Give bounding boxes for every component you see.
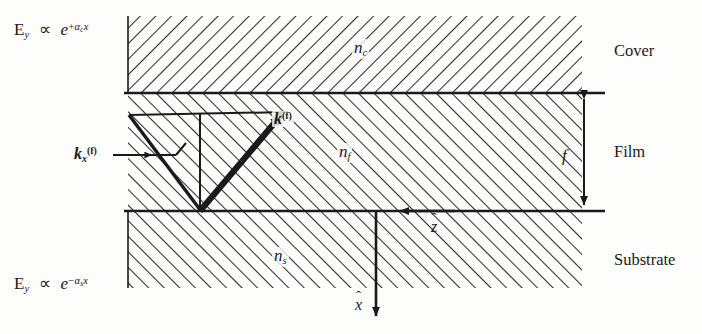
substrate-exp-var: x [83,275,88,286]
film-index-label: nf [337,143,352,163]
kx-film-symbol: k [74,145,82,162]
substrate-field-E: E [14,274,25,293]
k-film-vector-label: k(f) [272,111,294,127]
substrate-proportional-sign: ∝ [39,274,51,293]
film-index-symbol: n [339,142,348,161]
k-film-symbol: k [274,110,282,127]
x-hat-label: ˆx [355,297,362,313]
waveguide-diagram [0,0,702,334]
kx-film-superscript: (f) [87,145,97,156]
z-hat-label: ˆz [431,219,437,235]
substrate-index-sub: s [283,255,287,266]
k-film-superscript: (f) [282,110,292,121]
z-hat-accent: ˆ [432,210,437,225]
substrate-field-decay-label: Ey ∝ e−αsx [14,275,88,295]
cover-exp-var: x [84,21,89,32]
cover-field-decay-label: Ey ∝ e+αcx [14,21,89,41]
film-thickness-label: f [562,147,567,164]
kx-film-vector-label: kx(f) [74,146,97,164]
substrate-region-label: Substrate [614,252,675,269]
cover-index-symbol: n [354,38,363,57]
film-region-label: Film [614,144,645,161]
x-hat-accent: ˆ [356,288,361,303]
cover-field-E: E [14,20,25,39]
substrate-index-label: ns [272,247,289,267]
substrate-region [128,211,582,288]
cover-field-E-sub: y [25,29,30,40]
film-region [128,93,582,211]
cover-index-label: nc [352,39,369,59]
cover-proportional-sign: ∝ [39,20,51,39]
figure-canvas: Ey ∝ e+αcx Ey ∝ e−αsx nc nf ns k(f) kx(f… [0,0,702,334]
cover-region-label: Cover [614,43,654,60]
film-index-sub: f [348,151,351,162]
substrate-field-E-sub: y [25,283,30,294]
substrate-index-symbol: n [274,246,283,265]
cover-index-sub: c [363,47,368,58]
